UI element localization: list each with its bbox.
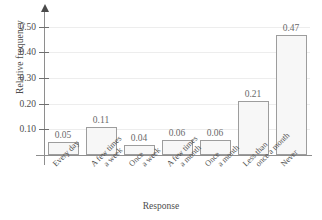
y-axis-below-origin-stub [44,155,45,165]
y-axis-tick-label: 0.20 [0,99,36,109]
bar-value-label: 0.06 [169,128,186,138]
y-axis-arrow-icon [41,4,49,12]
bar-chart: Relative frequency 0.100.200.300.400.50 … [0,0,322,220]
y-axis-tick-label: 0.40 [0,47,36,57]
bar-value-label: 0.11 [93,115,109,125]
y-axis-tick-label: 0.30 [0,73,36,83]
x-axis-title: Response [0,201,322,211]
bar-value-label: 0.06 [207,128,224,138]
bar-value-label: 0.04 [131,133,148,143]
y-axis-tick-label: 0.10 [0,124,36,134]
bar-value-label: 0.21 [245,89,262,99]
bar-value-label: 0.47 [283,23,300,33]
bar-value-label: 0.05 [55,130,72,140]
y-axis-tick-label: 0.50 [0,22,36,32]
